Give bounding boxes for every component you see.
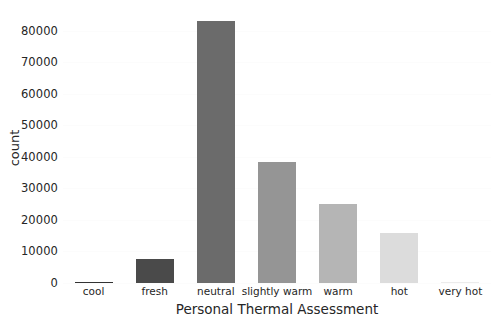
x-axis-tick-label: hot xyxy=(391,285,408,297)
y-axis-tick-label: 80000 xyxy=(2,24,58,38)
x-axis-tick-label: very hot xyxy=(439,285,483,297)
x-axis-tick-label: cool xyxy=(83,285,105,297)
bar[interactable] xyxy=(258,162,296,283)
y-axis-tick-label: 0 xyxy=(2,276,58,290)
bar[interactable] xyxy=(197,21,235,283)
bar[interactable] xyxy=(380,233,418,283)
bar-slot xyxy=(136,12,174,283)
x-axis-tick-label: fresh xyxy=(142,285,168,297)
y-axis-tick-label: 40000 xyxy=(2,150,58,164)
y-axis-tick-label: 50000 xyxy=(2,118,58,132)
bar-slot xyxy=(258,12,296,283)
y-axis-tick-label: 30000 xyxy=(2,181,58,195)
x-axis-tick-label: warm xyxy=(323,285,352,297)
bar-slot xyxy=(319,12,357,283)
y-axis-tick-label: 70000 xyxy=(2,55,58,69)
gridline xyxy=(63,283,491,284)
y-axis-tick-label: 20000 xyxy=(2,213,58,227)
bar-slot xyxy=(75,12,113,283)
x-axis-title: Personal Thermal Assessment xyxy=(63,301,491,317)
bar[interactable] xyxy=(441,282,479,284)
bar-slot xyxy=(197,12,235,283)
bar[interactable] xyxy=(136,259,174,283)
bar-slot xyxy=(380,12,418,283)
x-axis-tick-labels: coolfreshneutralslightly warmwarmhotvery… xyxy=(63,285,491,301)
bar-slot xyxy=(441,12,479,283)
y-axis-tick-labels: 0100002000030000400005000060000700008000… xyxy=(0,12,58,283)
x-axis-tick-label: neutral xyxy=(197,285,235,297)
bar[interactable] xyxy=(319,204,357,283)
bar-series xyxy=(63,12,491,283)
bar-chart-figure: count 0100002000030000400005000060000700… xyxy=(0,0,504,332)
bar[interactable] xyxy=(75,282,113,284)
x-axis-tick-label: slightly warm xyxy=(242,285,313,297)
y-axis-tick-label: 60000 xyxy=(2,87,58,101)
y-axis-tick-label: 10000 xyxy=(2,244,58,258)
